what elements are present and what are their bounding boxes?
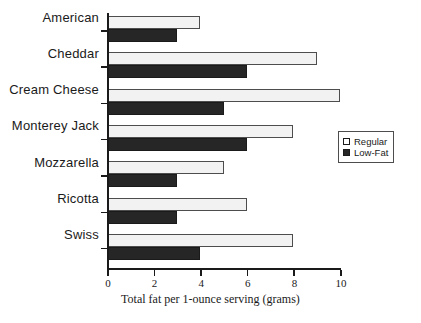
bar-ricotta-regular [107,198,247,211]
x-axis-tick [154,270,156,276]
bar-american-regular [107,16,200,29]
bar-cream-cheese-low-fat [107,102,224,115]
x-axis-tick [107,270,109,276]
bar-american-low-fat [107,29,177,42]
x-axis-tick-label: 10 [336,277,347,289]
x-axis-title: Total fat per 1-ounce serving (grams) [0,292,421,307]
category-label-monterey-jack: Monterey Jack [12,118,99,133]
bar-ricotta-low-fat [107,211,177,224]
y-axis-tick [101,139,108,141]
y-axis-line [107,13,109,269]
y-axis-tick [101,66,108,68]
x-axis-tick [200,270,202,276]
bar-swiss-low-fat [107,247,200,260]
filled-square-icon [343,149,350,156]
category-label-swiss: Swiss [64,227,99,242]
category-label-american: American [42,9,99,24]
y-axis-tick [101,248,108,250]
bar-swiss-regular [107,234,293,247]
legend-item-low-fat: Low-Fat [343,148,388,158]
bar-cream-cheese-regular [107,89,340,102]
y-axis-tick [101,175,108,177]
y-axis-tick [101,103,108,105]
category-label-cheddar: Cheddar [48,45,99,60]
bar-cheddar-low-fat [107,65,247,78]
y-axis-tick [101,212,108,214]
bar-mozzarella-regular [107,161,224,174]
legend-item-regular: Regular [343,137,388,147]
bar-cheddar-regular [107,52,317,65]
x-axis-line [107,268,341,270]
legend-label-low-fat: Low-Fat [354,148,388,158]
x-axis-tick-label: 6 [245,277,251,289]
x-axis-tick-label: 4 [198,277,204,289]
bar-monterey-jack-low-fat [107,138,247,151]
x-axis-tick [340,270,342,276]
x-axis-tick-label: 0 [105,277,111,289]
plot-area [107,14,340,268]
legend-label-regular: Regular [354,137,387,147]
bar-chart: AmericanCheddarCream CheeseMonterey Jack… [0,0,421,323]
x-axis-tick [293,270,295,276]
chart-legend: Regular Low-Fat [338,131,394,163]
x-axis-tick-label: 8 [292,277,298,289]
bar-monterey-jack-regular [107,125,293,138]
category-label-cream-cheese: Cream Cheese [9,82,99,97]
category-label-mozzarella: Mozzarella [34,154,99,169]
category-label-ricotta: Ricotta [57,191,99,206]
x-axis-tick [247,270,249,276]
y-axis-tick [101,30,108,32]
x-axis-tick-label: 2 [152,277,158,289]
bar-mozzarella-low-fat [107,174,177,187]
open-square-icon [343,138,350,145]
